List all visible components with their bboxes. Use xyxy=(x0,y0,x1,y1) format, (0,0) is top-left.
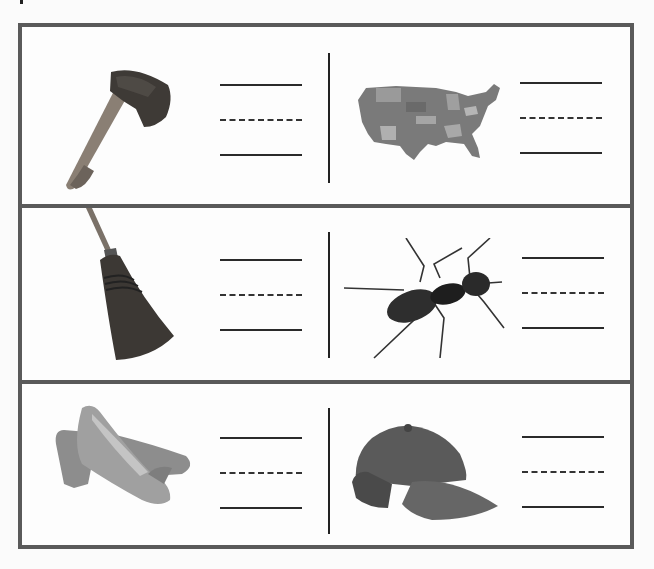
midline-dashed xyxy=(220,472,302,474)
midline-dashed xyxy=(522,471,604,473)
baseline xyxy=(220,507,302,509)
baseline xyxy=(520,152,602,154)
cell-ant xyxy=(328,208,634,380)
top-line xyxy=(522,257,604,259)
worksheet-frame xyxy=(18,23,634,549)
corner-mark xyxy=(20,0,23,4)
writing-lines[interactable] xyxy=(220,437,302,517)
writing-lines[interactable] xyxy=(522,257,604,337)
midline-dashed xyxy=(522,292,604,294)
axe-icon xyxy=(56,47,186,192)
writing-lines[interactable] xyxy=(220,259,302,339)
baseline xyxy=(220,329,302,331)
top-line xyxy=(220,84,302,86)
writing-lines[interactable] xyxy=(520,82,602,162)
top-line xyxy=(220,437,302,439)
top-line xyxy=(522,436,604,438)
top-line xyxy=(220,259,302,261)
baseline xyxy=(522,506,604,508)
cell-usa-map xyxy=(328,27,634,204)
broom-icon xyxy=(82,208,182,368)
writing-lines[interactable] xyxy=(220,84,302,164)
ant-icon xyxy=(344,238,514,368)
midline-dashed xyxy=(220,294,302,296)
cell-shoes xyxy=(22,384,328,549)
cell-broom xyxy=(22,208,328,380)
baseline xyxy=(522,327,604,329)
midline-dashed xyxy=(220,119,302,121)
top-line xyxy=(520,82,602,84)
midline-dashed xyxy=(520,117,602,119)
usa-map-icon xyxy=(356,82,506,172)
worksheet-row-3 xyxy=(22,380,630,549)
cap-icon xyxy=(352,424,502,524)
writing-lines[interactable] xyxy=(522,436,604,516)
worksheet-row-2 xyxy=(22,204,630,380)
worksheet-row-1 xyxy=(22,27,630,204)
baseline xyxy=(220,154,302,156)
shoes-icon xyxy=(52,404,202,534)
cell-axe xyxy=(22,27,328,204)
cell-cap xyxy=(328,384,634,549)
